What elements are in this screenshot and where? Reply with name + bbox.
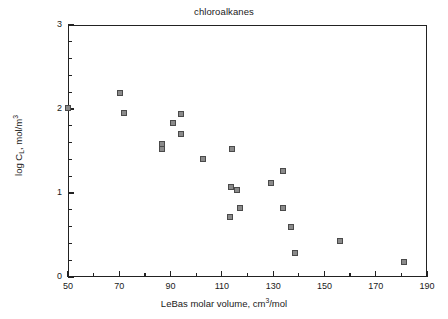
x-axis-title-sup: 3 — [265, 297, 269, 304]
y-tick-major — [68, 276, 74, 277]
plot-area — [68, 25, 427, 277]
x-tick-label: 90 — [156, 281, 186, 291]
x-tick-label: 190 — [412, 281, 442, 291]
y-tick-minor — [68, 142, 72, 143]
y-tick-minor — [68, 75, 72, 76]
y-tick-minor — [68, 176, 72, 177]
y-tick-minor — [68, 159, 72, 160]
x-tick-label: 50 — [53, 281, 83, 291]
x-tick-major — [67, 271, 68, 277]
y-axis-title-sub: L — [18, 150, 25, 154]
x-tick-minor — [93, 273, 94, 277]
x-axis-title: LeBas molar volume, cm3/mol — [0, 298, 448, 309]
y-tick-major — [68, 108, 74, 109]
x-tick-minor — [247, 273, 248, 277]
x-tick-major — [221, 271, 222, 277]
x-tick-major — [324, 271, 325, 277]
y-tick-minor — [68, 243, 72, 244]
chart-title: chloroalkanes — [0, 6, 448, 17]
y-tick-major — [68, 24, 74, 25]
x-tick-major — [375, 271, 376, 277]
x-tick-label: 130 — [258, 281, 288, 291]
x-tick-minor — [144, 273, 145, 277]
x-tick-major — [426, 271, 427, 277]
y-tick-minor — [68, 41, 72, 42]
x-tick-label: 70 — [104, 281, 134, 291]
y-tick-minor — [68, 260, 72, 261]
x-tick-major — [273, 271, 274, 277]
x-axis-title-pre: LeBas molar volume, cm — [161, 298, 266, 309]
y-tick-label: 1 — [38, 187, 62, 197]
y-tick-minor — [68, 58, 72, 59]
x-tick-minor — [349, 273, 350, 277]
x-tick-label: 150 — [309, 281, 339, 291]
y-tick-major — [68, 192, 74, 193]
y-axis-title-sup: 3 — [12, 115, 19, 119]
x-tick-major — [170, 271, 171, 277]
x-axis-title-post: /mol — [269, 298, 287, 309]
x-tick-minor — [298, 273, 299, 277]
y-tick-minor — [68, 209, 72, 210]
y-tick-label: 2 — [38, 103, 62, 113]
y-tick-label: 0 — [38, 271, 62, 281]
y-tick-minor — [68, 125, 72, 126]
x-tick-major — [119, 271, 120, 277]
x-tick-minor — [401, 273, 402, 277]
x-tick-label: 170 — [361, 281, 391, 291]
y-axis-title: log CL, mol/m3 — [13, 56, 24, 236]
y-axis-title-pre: log C — [13, 154, 24, 176]
x-tick-label: 110 — [207, 281, 237, 291]
chart-figure: chloroalkanes 0123507090110130150170190 … — [0, 0, 448, 319]
y-tick-minor — [68, 92, 72, 93]
x-tick-minor — [196, 273, 197, 277]
y-axis-title-mid: , mol/m — [13, 119, 24, 150]
y-tick-minor — [68, 226, 72, 227]
y-tick-label: 3 — [38, 19, 62, 29]
